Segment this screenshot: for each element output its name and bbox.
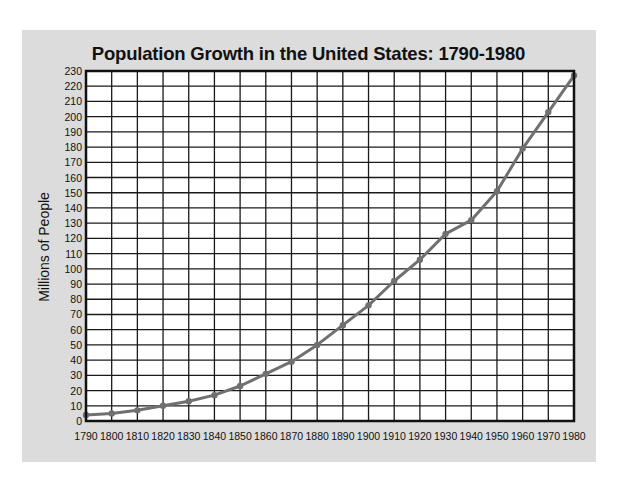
x-tick-label: 1980 xyxy=(562,430,586,442)
y-tick-label: 170 xyxy=(64,156,82,168)
data-point xyxy=(186,398,192,404)
data-point xyxy=(391,278,397,284)
x-tick-label: 1870 xyxy=(280,430,304,442)
data-point xyxy=(288,358,294,364)
y-tick-label: 130 xyxy=(64,217,82,229)
y-tick-label: 160 xyxy=(64,172,82,184)
x-tick-label: 1860 xyxy=(254,430,278,442)
data-point xyxy=(442,231,448,237)
x-axis-ticks: 1790180018101820183018401850186018701880… xyxy=(74,430,586,442)
data-point xyxy=(314,342,320,348)
x-tick-label: 1960 xyxy=(511,430,535,442)
y-tick-label: 140 xyxy=(64,202,82,214)
x-tick-label: 1810 xyxy=(126,430,150,442)
x-tick-label: 1840 xyxy=(203,430,227,442)
data-point xyxy=(211,392,217,398)
x-tick-label: 1910 xyxy=(383,430,407,442)
data-point xyxy=(365,302,371,308)
y-tick-label: 210 xyxy=(64,95,82,107)
y-tick-label: 0 xyxy=(76,415,82,427)
y-tick-label: 60 xyxy=(70,324,82,336)
plot-area xyxy=(86,71,574,421)
y-tick-label: 100 xyxy=(64,263,82,275)
x-tick-label: 1800 xyxy=(100,430,124,442)
x-tick-label: 1830 xyxy=(177,430,201,442)
data-point xyxy=(237,383,243,389)
y-tick-label: 20 xyxy=(70,385,82,397)
y-tick-label: 230 xyxy=(64,65,82,77)
x-tick-label: 1890 xyxy=(331,430,355,442)
y-tick-label: 180 xyxy=(64,141,82,153)
y-tick-label: 80 xyxy=(70,293,82,305)
x-tick-label: 1950 xyxy=(485,430,509,442)
y-tick-label: 200 xyxy=(64,111,82,123)
line-chart: 0102030405060708090100110120130140150160… xyxy=(0,0,617,481)
x-tick-label: 1820 xyxy=(151,430,175,442)
x-tick-label: 1930 xyxy=(434,430,458,442)
data-point xyxy=(108,410,114,416)
x-tick-label: 1790 xyxy=(74,430,98,442)
data-point xyxy=(545,109,551,115)
y-tick-label: 220 xyxy=(64,80,82,92)
data-point xyxy=(519,145,525,151)
y-tick-label: 50 xyxy=(70,339,82,351)
y-tick-label: 30 xyxy=(70,369,82,381)
y-tick-label: 190 xyxy=(64,126,82,138)
data-point xyxy=(417,256,423,262)
y-tick-label: 70 xyxy=(70,308,82,320)
data-point xyxy=(340,322,346,328)
x-tick-label: 1940 xyxy=(460,430,484,442)
y-tick-label: 120 xyxy=(64,232,82,244)
x-tick-label: 1880 xyxy=(305,430,329,442)
y-tick-label: 150 xyxy=(64,187,82,199)
y-tick-label: 10 xyxy=(70,400,82,412)
data-point xyxy=(160,403,166,409)
x-tick-label: 1850 xyxy=(228,430,252,442)
data-point xyxy=(134,407,140,413)
y-tick-label: 90 xyxy=(70,278,82,290)
data-point xyxy=(468,217,474,223)
data-point xyxy=(263,371,269,377)
data-point xyxy=(494,188,500,194)
y-axis-ticks: 0102030405060708090100110120130140150160… xyxy=(64,65,82,427)
x-tick-label: 1920 xyxy=(408,430,432,442)
x-tick-label: 1970 xyxy=(537,430,561,442)
x-tick-label: 1900 xyxy=(357,430,381,442)
y-tick-label: 40 xyxy=(70,354,82,366)
y-tick-label: 110 xyxy=(65,248,82,260)
